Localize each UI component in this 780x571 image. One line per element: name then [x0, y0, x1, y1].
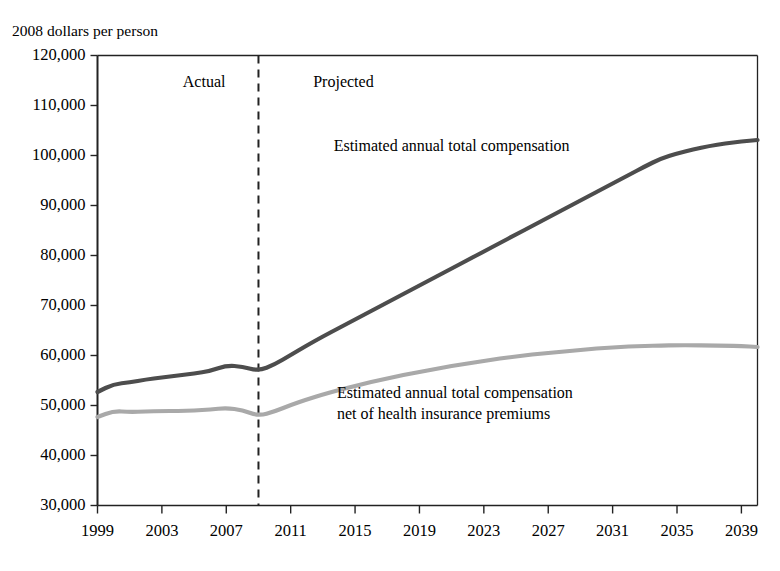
axis-ticks [91, 56, 742, 514]
y-tick-label: 60,000 [40, 345, 85, 365]
x-tick-label: 2019 [389, 521, 449, 541]
x-tick-label: 2031 [583, 521, 643, 541]
x-tick-label: 2023 [454, 521, 514, 541]
chart-plot-svg [0, 0, 780, 571]
data-series-group [98, 140, 758, 417]
region-label-actual: Actual [183, 73, 226, 91]
x-tick-label: 2039 [711, 521, 771, 541]
x-tick-label: 2015 [325, 521, 385, 541]
total-compensation-annotation: Estimated annual total compensation [334, 135, 570, 156]
y-tick-label: 30,000 [40, 495, 85, 515]
net-compensation-annotation: Estimated annual total compensationnet o… [337, 382, 573, 424]
annotation-line: Estimated annual total compensation [334, 135, 570, 156]
x-tick-label: 2027 [518, 521, 578, 541]
y-tick-label: 120,000 [32, 45, 86, 65]
y-tick-label: 80,000 [40, 245, 85, 265]
region-label-projected: Projected [313, 73, 373, 91]
y-tick-label: 90,000 [40, 195, 85, 215]
x-tick-label: 2003 [132, 521, 192, 541]
chart-container: 2008 dollars per person 120,000110,00010… [0, 0, 780, 571]
x-tick-label: 2011 [261, 521, 321, 541]
y-tick-label: 50,000 [40, 395, 85, 415]
x-tick-label: 2035 [647, 521, 707, 541]
annotation-line: net of health insurance premiums [337, 403, 573, 424]
y-tick-label: 100,000 [32, 145, 86, 165]
x-tick-label: 1999 [68, 521, 128, 541]
y-tick-label: 40,000 [40, 445, 85, 465]
series-line-total_compensation [98, 140, 758, 392]
y-tick-label: 70,000 [40, 295, 85, 315]
x-tick-label: 2007 [196, 521, 256, 541]
annotation-line: Estimated annual total compensation [337, 382, 573, 403]
y-tick-label: 110,000 [32, 95, 85, 115]
